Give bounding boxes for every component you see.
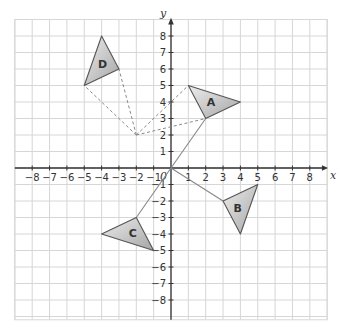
y-tick-label: 4 [160,97,166,108]
y-axis-arrow-icon [168,18,174,25]
y-tick-label: −3 [151,212,166,223]
y-tick-label: −4 [151,229,166,240]
x-tick-label: −6 [60,172,75,183]
y-tick-label: 8 [160,31,166,42]
coordinate-grid-diagram: −8−7−6−5−4−3−2−112345678−8−7−6−5−4−3−2−1… [0,0,342,336]
x-tick-label: 2 [203,172,209,183]
dashed-connector-line [84,86,136,136]
y-tick-label: −7 [151,278,166,289]
y-tick-label: 7 [160,47,166,58]
y-tick-label: −6 [151,262,166,273]
y-tick-label: 6 [160,64,166,75]
x-tick-label: −3 [112,172,127,183]
triangle-label: D [98,58,107,71]
y-tick-label: −2 [151,196,166,207]
x-tick-label: 4 [237,172,243,183]
x-tick-label: 5 [255,172,261,183]
x-tick-label: 6 [272,172,278,183]
origin-label: 0 [160,170,167,183]
x-axis-label: x [330,169,337,182]
triangle-label: C [129,227,137,240]
y-tick-label: 1 [160,146,166,157]
x-tick-label: −7 [42,172,57,183]
x-tick-label: −8 [25,172,40,183]
y-tick-label: 3 [160,113,166,124]
tick-labels: −8−7−6−5−4−3−2−112345678−8−7−6−5−4−3−2−1… [25,7,337,305]
y-tick-label: 5 [160,80,166,91]
x-tick-label: 8 [307,172,313,183]
x-tick-label: 7 [289,172,295,183]
y-tick-label: −8 [151,295,166,306]
x-tick-label: −4 [94,172,109,183]
y-axis-label: y [159,7,167,20]
x-tick-label: −5 [77,172,92,183]
triangle-label: B [234,202,242,215]
triangle-label: A [207,96,216,109]
y-tick-label: 2 [160,130,166,141]
dashed-connector-line [136,86,188,136]
x-tick-label: −2 [129,172,144,183]
coordinate-plane: −8−7−6−5−4−3−2−112345678−8−7−6−5−4−3−2−1… [0,0,342,336]
x-tick-label: 3 [220,172,226,183]
